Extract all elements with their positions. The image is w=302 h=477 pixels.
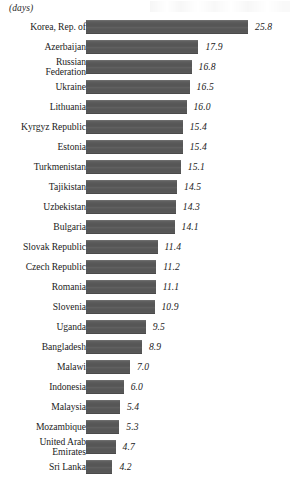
bar-category-label: Estonia [2,137,86,157]
bar [86,460,112,474]
bar-value-label: 6.0 [131,377,143,397]
bar-category-label: Sri Lanka [2,457,86,477]
bar [86,40,198,54]
bar-category-label: Turkmenistan [2,157,86,177]
bar [86,400,120,414]
bar [86,420,119,434]
bar-value-label: 4.2 [119,457,131,477]
bar-value-label: 16.5 [197,77,214,97]
bar-row: Malawi7.0 [0,357,302,377]
bar [86,100,187,114]
bar-track [86,80,286,94]
bar-track [86,60,286,74]
bar-category-label: Bangladesh [2,337,86,357]
bar-track [86,340,286,354]
bar-rows: Korea, Rep. of25.8Azerbaijan17.9RussianF… [0,17,302,477]
bar-value-label: 10.9 [161,297,178,317]
bar-row: Sri Lanka4.2 [0,457,302,477]
bar [86,320,146,334]
bar-track [86,440,286,454]
bar-track [86,380,286,394]
bar [86,280,156,294]
bar-row: Czech Republic11.2 [0,257,302,277]
bar-category-label: Mozambique [2,417,86,437]
bar [86,240,158,254]
bar-track [86,100,286,114]
bar [86,160,181,174]
bar-row: Slovak Republic11.4 [0,237,302,257]
bar-category-label: Slovak Republic [2,237,86,257]
bar-category-label: Tajikistan [2,177,86,197]
bar-value-label: 25.8 [255,17,272,37]
bar-track [86,300,286,314]
bar-track [86,400,286,414]
bar-category-label: Korea, Rep. of [2,17,86,37]
bar-row: Malaysia5.4 [0,397,302,417]
bar-category-label: Czech Republic [2,257,86,277]
bar-value-label: 15.1 [188,157,205,177]
bar [86,340,142,354]
bar-category-label: Slovenia [2,297,86,317]
bar-track [86,420,286,434]
bar-row: Azerbaijan17.9 [0,37,302,57]
bar-category-label: Lithuania [2,97,86,117]
bar-value-label: 14.1 [182,217,199,237]
bar [86,60,192,74]
bar-value-label: 16.0 [193,97,210,117]
bar-category-label: Romania [2,277,86,297]
bar [86,200,176,214]
bar-category-label: Bulgaria [2,217,86,237]
bar-value-label: 11.2 [163,257,179,277]
bar-row: Uganda9.5 [0,317,302,337]
bar-row: Lithuania16.0 [0,97,302,117]
scan-artifact [150,1,290,12]
bar-row: Ukraine16.5 [0,77,302,97]
bar [86,380,124,394]
bar-value-label: 5.4 [127,397,139,417]
bar [86,140,183,154]
bar-value-label: 11.1 [163,277,179,297]
bar [86,120,183,134]
bar-category-label: Azerbaijan [2,37,86,57]
bar-track [86,120,286,134]
bar-value-label: 9.5 [153,317,165,337]
bar-row: Uzbekistan14.3 [0,197,302,217]
bar-category-label: Uzbekistan [2,197,86,217]
bar-category-label: Malaysia [2,397,86,417]
bar [86,260,156,274]
bar-row: Slovenia10.9 [0,297,302,317]
bar-value-label: 17.9 [205,37,222,57]
bar-track [86,320,286,334]
bar-row: Indonesia6.0 [0,377,302,397]
bar-value-label: 16.8 [199,57,216,77]
bar-track [86,240,286,254]
bar-value-label: 7.0 [137,357,149,377]
bar-track [86,360,286,374]
bar-category-label: RussianFederation [2,57,86,77]
bar-track [86,460,286,474]
bar-value-label: 4.7 [123,437,135,457]
bar-category-label: Indonesia [2,377,86,397]
bar-category-label: Malawi [2,357,86,377]
bar-value-label: 5.3 [126,417,138,437]
bar [86,220,175,234]
bar [86,440,116,454]
bar-value-label: 11.4 [165,237,181,257]
bar-row: Bulgaria14.1 [0,217,302,237]
bar-track [86,160,286,174]
bar-track [86,260,286,274]
bar-value-label: 8.9 [149,337,161,357]
bar-row: Mozambique5.3 [0,417,302,437]
bar [86,180,177,194]
bar-value-label: 15.4 [190,117,207,137]
bar-value-label: 14.5 [184,177,201,197]
bar [86,80,190,94]
bar-row: Turkmenistan15.1 [0,157,302,177]
bar-category-label: Uganda [2,317,86,337]
bar-row: Tajikistan14.5 [0,177,302,197]
bar-row: Bangladesh8.9 [0,337,302,357]
bar [86,300,155,314]
bar-category-label: Ukraine [2,77,86,97]
bar-track [86,280,286,294]
